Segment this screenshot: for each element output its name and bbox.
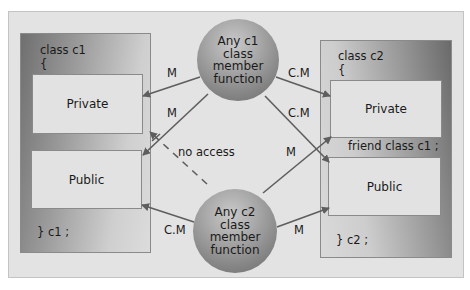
sphere-c1-line: function [213, 73, 264, 86]
label-no-access: no access [178, 145, 235, 159]
label-c1fn-to-c1-public: M [167, 106, 177, 120]
sphere-c2-line: member [210, 231, 261, 244]
sphere-c2-line: Any c2 [210, 206, 261, 219]
label-c2fn-to-c1-public: C.M [164, 223, 186, 237]
label-c1fn-to-c2-public: C.M [288, 106, 310, 120]
sphere-c2-member-function: Any c2 class member function [193, 189, 277, 273]
label-c2fn-to-c2-private: M [286, 145, 296, 159]
sphere-c1-member-function: Any c1 class member function [197, 19, 279, 101]
label-c1fn-to-c2-private: C.M [288, 66, 310, 80]
sphere-c2-line: function [210, 244, 261, 257]
arrow-c2fn-to-c2-private [263, 137, 331, 193]
sphere-c1-line: member [213, 60, 264, 73]
label-c2fn-to-c2-public: M [294, 223, 304, 237]
arrow-c2fn-to-c1-public [142, 205, 194, 222]
label-c1fn-to-c1-private: M [167, 66, 177, 80]
sphere-c1-line: Any c1 [213, 35, 264, 48]
